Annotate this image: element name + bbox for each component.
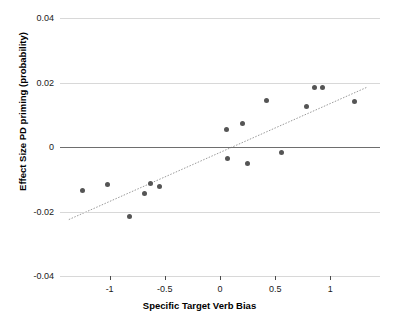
data-point: [304, 104, 309, 109]
gridline: [60, 212, 380, 213]
zero-line: [60, 147, 380, 148]
x-tick-mark: [275, 276, 276, 280]
gridline: [60, 83, 380, 84]
data-point: [105, 182, 110, 187]
x-tick-label: 0.5: [260, 284, 290, 294]
data-point: [240, 121, 245, 126]
data-point: [352, 99, 357, 104]
x-axis-label: Specific Target Verb Bias: [0, 300, 399, 311]
x-tick-mark: [330, 276, 331, 280]
y-tick-label: 0.02: [8, 78, 54, 88]
x-tick-mark: [165, 276, 166, 280]
x-tick-mark: [220, 276, 221, 280]
y-tick-label: 0: [8, 142, 54, 152]
x-tick-label: -0.5: [150, 284, 180, 294]
y-tick-label: -0.04: [8, 271, 54, 281]
data-point: [148, 181, 153, 186]
scatter-chart: 0.040.020-0.02-0.04-1-0.500.51 Effect Si…: [0, 0, 399, 329]
y-tick-label: -0.02: [8, 207, 54, 217]
x-tick-label: 0: [205, 284, 235, 294]
x-tick-mark: [110, 276, 111, 280]
data-point: [127, 214, 132, 219]
x-tick-label: -1: [95, 284, 125, 294]
y-tick-label: 0.04: [8, 13, 54, 23]
data-point: [225, 156, 230, 161]
data-point: [224, 127, 229, 132]
gridline: [60, 18, 380, 19]
x-tick-label: 1: [315, 284, 345, 294]
data-point: [157, 184, 162, 189]
data-point: [80, 188, 85, 193]
y-axis-label: Effect Size PD priming (probability): [17, 2, 28, 222]
plot-area: 0.040.020-0.02-0.04-1-0.500.51: [60, 18, 380, 276]
